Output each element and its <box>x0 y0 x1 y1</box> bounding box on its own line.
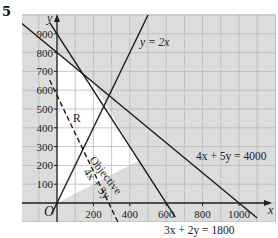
y-tick-label: 900 <box>37 28 54 40</box>
y-axis-label: y <box>46 11 53 25</box>
y-tick-label: 100 <box>37 178 54 190</box>
x-tick-label: 400 <box>122 208 139 220</box>
y-tick-label: 500 <box>37 103 54 115</box>
y-tick-label: 700 <box>37 65 54 77</box>
label-4x-5y-4000: 4x + 5y = 4000 <box>196 150 267 163</box>
y-tick-label: 800 <box>37 47 54 59</box>
y-tick-label: 200 <box>37 159 54 171</box>
label-region-r: R <box>73 112 81 124</box>
x-tick-label: 1000 <box>228 208 251 220</box>
label-3x-2y-1800: 3x + 2y = 1800 <box>164 224 235 237</box>
x-tick-label: 800 <box>194 208 211 220</box>
origin-label: O <box>44 204 54 219</box>
y-tick-label: 300 <box>37 141 54 153</box>
linear-programming-chart: 2004006008001000100200300400500600700800… <box>0 0 278 238</box>
x-tick-label: 600 <box>158 208 175 220</box>
x-tick-label: 200 <box>85 208 102 220</box>
y-tick-label: 400 <box>37 122 54 134</box>
label-y-eq-2x: y = 2x <box>139 36 170 49</box>
x-axis-label: x <box>267 203 274 217</box>
y-tick-label: 600 <box>37 84 54 96</box>
